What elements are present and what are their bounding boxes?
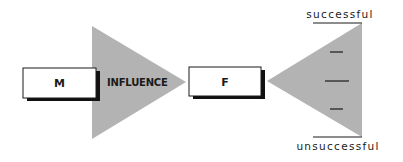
unsuccessful-label: unsuccessful bbox=[296, 140, 379, 152]
target-box-f: F bbox=[189, 67, 265, 99]
outcome-scale-triangle bbox=[267, 23, 362, 137]
source-box-label: M bbox=[54, 77, 65, 90]
influence-label: INFLUENCE bbox=[107, 77, 168, 88]
influence-diagram: M INFLUENCE F successful unsuccessful bbox=[0, 0, 403, 162]
successful-label: successful bbox=[306, 8, 373, 20]
target-box-label: F bbox=[221, 76, 229, 89]
source-box-m: M bbox=[23, 68, 100, 101]
